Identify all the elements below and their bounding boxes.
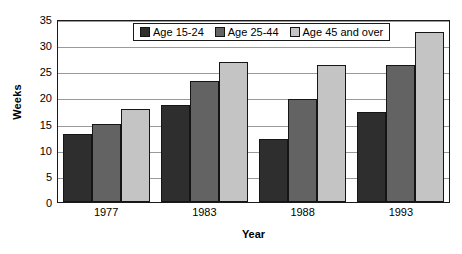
bar: [190, 81, 219, 202]
x-tick-label: 1983: [155, 206, 253, 224]
bar: [288, 99, 317, 202]
x-tick-label: 1988: [254, 206, 352, 224]
x-tick-label: 1977: [57, 206, 155, 224]
bar: [161, 105, 190, 202]
bar: [63, 134, 92, 202]
legend-item: Age 15-24: [140, 26, 204, 38]
legend-swatch: [140, 27, 150, 37]
bar: [259, 139, 288, 202]
legend-label: Age 25-44: [228, 26, 279, 38]
y-tick-label: 35: [40, 14, 52, 26]
y-tick-label: 20: [40, 92, 52, 104]
x-tick-label: 1993: [352, 206, 450, 224]
bar-group: [58, 21, 156, 202]
legend-label: Age 45 and over: [303, 26, 384, 38]
legend-swatch: [215, 27, 225, 37]
x-axis-title: Year: [57, 228, 450, 240]
y-tick-label: 25: [40, 66, 52, 78]
bar: [121, 109, 150, 202]
bar-chart: Weeks 05101520253035 Age 15-24Age 25-44A…: [0, 0, 462, 254]
bar: [219, 62, 248, 202]
legend-item: Age 45 and over: [290, 26, 384, 38]
y-tick-label: 5: [46, 171, 52, 183]
legend-item: Age 25-44: [215, 26, 279, 38]
bar: [92, 124, 121, 202]
y-axis-title: Weeks: [6, 0, 28, 203]
bar: [357, 112, 386, 202]
bar: [386, 65, 415, 203]
bar-group: [351, 21, 449, 202]
x-axis-tick-labels: 1977198319881993: [57, 206, 450, 224]
y-axis-title-text: Weeks: [11, 84, 23, 120]
legend-swatch: [290, 27, 300, 37]
y-tick-label: 10: [40, 145, 52, 157]
legend: Age 15-24Age 25-44Age 45 and over: [133, 23, 390, 41]
bar-groups: [58, 21, 449, 202]
legend-label: Age 15-24: [153, 26, 204, 38]
bar: [317, 65, 346, 202]
y-tick-label: 30: [40, 40, 52, 52]
y-tick-label: 0: [46, 197, 52, 209]
plot-area: [57, 20, 450, 203]
bar: [415, 32, 444, 202]
bar-group: [254, 21, 352, 202]
y-tick-label: 15: [40, 119, 52, 131]
bar-group: [156, 21, 254, 202]
y-axis-tick-labels: 05101520253035: [26, 20, 52, 203]
